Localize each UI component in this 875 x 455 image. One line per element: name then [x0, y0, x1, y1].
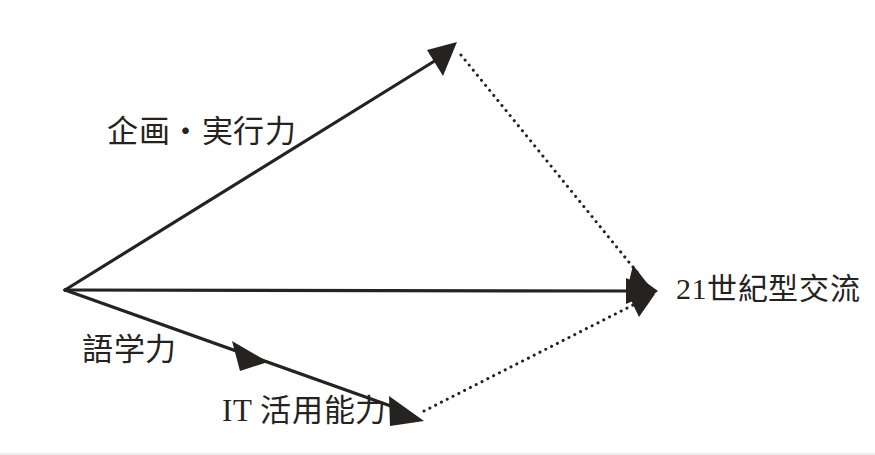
vector-it-skill-arrowhead [389, 396, 424, 426]
vector-language-shaft [65, 290, 636, 291]
diagram-canvas: 企画・実行力 語学力 IT 活用能力 21世紀型交流 [0, 0, 875, 455]
vector-planning-shaft [65, 57, 441, 290]
gap-line-planning [461, 55, 654, 292]
label-language-ability: 語学力 [82, 334, 177, 365]
gap-line-it-skill [424, 294, 655, 411]
vector-planning-arrowhead [427, 42, 457, 76]
gap-line-it-skill-shaft [424, 303, 637, 411]
vector-language [65, 278, 656, 304]
label-it-utilization: IT 活用能力 [222, 395, 387, 426]
gap-line-planning-shaft [461, 55, 641, 277]
vector-planning [65, 42, 457, 290]
label-goal-node: 21世紀型交流 [676, 274, 860, 304]
vector-it-skill-mid-arrowhead [232, 341, 268, 371]
vector-diagram [0, 0, 875, 455]
label-planning-execution: 企画・実行力 [107, 116, 297, 147]
